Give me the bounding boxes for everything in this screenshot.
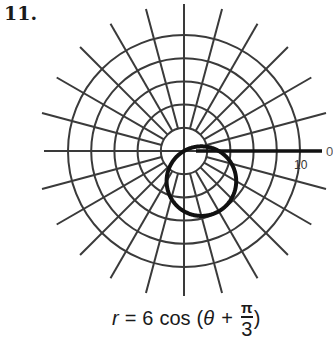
grid-spoke	[80, 167, 168, 255]
equation-function: cos	[159, 307, 190, 330]
equation: r = 6 cos ( θ + π 3 )	[112, 300, 261, 339]
polar-graph: 0 10	[0, 0, 333, 349]
grid-spoke	[80, 47, 168, 135]
equation-open-paren: (	[197, 307, 204, 330]
equation-coefficient: 6	[142, 307, 153, 330]
equation-lhs: r	[112, 307, 119, 330]
equation-close-paren: )	[254, 307, 261, 330]
angle-zero-label: 0	[326, 144, 333, 159]
grid-spoke	[200, 47, 288, 135]
grid-spoke	[200, 167, 288, 255]
fraction-denominator: 3	[241, 318, 252, 339]
equation-plus: +	[221, 307, 233, 330]
radius-ten-label: 10	[294, 158, 308, 172]
equation-theta: θ	[203, 307, 214, 330]
equation-fraction: π 3	[241, 300, 253, 339]
fraction-numerator: π	[241, 300, 252, 316]
equation-equals: =	[125, 307, 137, 330]
